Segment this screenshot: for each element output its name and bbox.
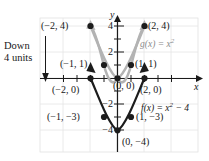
label-g-minus1-1: (−1, 1) <box>60 59 87 69</box>
y-tick-label-minus2: −2 <box>100 99 113 109</box>
point-f-minus1-minus3 <box>101 114 107 120</box>
y-axis-label: y <box>110 10 114 20</box>
point-g-minus1-1 <box>101 62 107 68</box>
function-label-f-tail: − 4 <box>173 103 189 113</box>
point-f-2-0 <box>141 75 147 81</box>
point-f-0-minus4 <box>114 127 120 133</box>
y-tick-label-minus4: −4 <box>100 125 113 135</box>
label-g-1-1: (1, 1) <box>135 59 157 69</box>
label-f-0-minus4: (0, −4) <box>122 137 149 147</box>
x-axis-label: x <box>194 82 198 92</box>
label-f-1-minus3: (1, −3) <box>136 112 163 122</box>
label-g-0-0: (0, 0) <box>113 81 135 91</box>
function-label-g-exponent: 2 <box>171 37 175 45</box>
label-f-2-0: (2, 0) <box>140 85 162 95</box>
label-g-minus2-4: (−2, 4) <box>41 21 68 31</box>
point-f-minus2-0 <box>87 75 93 81</box>
function-label-g: g(x) = x2 <box>140 40 174 50</box>
function-label-f: f(x) = x2 − 4 <box>141 104 189 114</box>
point-f-1-minus3 <box>128 114 134 120</box>
label-g-2-4: (2, 4) <box>148 21 170 31</box>
point-g-minus2-4 <box>87 23 93 29</box>
label-f-minus2-0: (−2, 0) <box>52 85 79 95</box>
label-f-minus1-minus3: (−1, −3) <box>47 112 80 122</box>
parabola-shift-figure: Down 4 units <box>0 0 209 161</box>
point-g-2-4 <box>141 23 147 29</box>
function-label-f-text: f(x) = x <box>141 103 170 113</box>
function-label-g-text: g(x) = x <box>140 39 171 49</box>
y-tick-label-2: 2 <box>105 47 113 57</box>
point-g-1-1 <box>128 62 134 68</box>
y-tick-label-4: 4 <box>105 21 113 31</box>
